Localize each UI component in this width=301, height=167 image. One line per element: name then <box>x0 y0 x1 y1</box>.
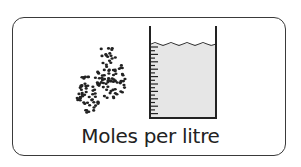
particle-cluster-icon <box>76 47 127 114</box>
beaker-icon <box>150 26 216 118</box>
caption: Moles per litre <box>0 124 301 148</box>
